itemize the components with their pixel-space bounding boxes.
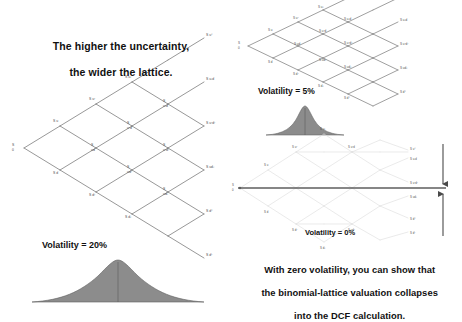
node-label: S u²d: [319, 29, 327, 33]
conclusion-line-3: into the DCF calculation.: [294, 310, 405, 321]
node-label: S d³: [318, 84, 324, 88]
node-label: S u³d: [400, 18, 408, 22]
node-label: S d⁵: [410, 231, 415, 235]
page-title-line-1: The higher the uncertainty,: [53, 40, 190, 52]
node-label: S u²d: [348, 145, 355, 149]
node-label: S ud: [294, 42, 301, 46]
volatility-0-label: Volatility = 0%: [305, 228, 355, 237]
node-label: S u³d: [344, 17, 352, 21]
node-label: S u²: [293, 16, 299, 20]
volatility-5-label: Volatility = 5%: [258, 86, 315, 96]
node-label: S u²: [89, 97, 96, 101]
node-label: S ud³: [400, 66, 407, 70]
node-label: ud²: [127, 170, 133, 174]
node-label: S u²d²: [400, 42, 408, 46]
page-title: The higher the uncertainty, the wider th…: [28, 27, 208, 79]
node-label: S d²: [293, 72, 299, 76]
node-label: S d: [268, 60, 273, 64]
node-label: S ud²: [319, 58, 326, 62]
node-label: S u³: [318, 5, 324, 9]
conclusion-text: With zero volatility, you can show that …: [236, 252, 458, 322]
node-label: ud³: [163, 192, 169, 196]
node-label: u²d²: [163, 148, 170, 152]
node-label: S u: [268, 28, 273, 32]
node-label: S d³: [125, 215, 132, 219]
node-label: S u: [53, 119, 58, 123]
node-label: S d⁴: [344, 96, 351, 100]
node-label: S d²: [89, 193, 96, 197]
node-label: S: [232, 183, 234, 187]
node-label: S u³: [320, 127, 325, 131]
node-label: S d²: [292, 228, 297, 232]
conclusion-line-1: With zero volatility, you can show that: [264, 264, 435, 275]
node-label: S ud³: [344, 65, 351, 69]
node-label: S d³: [320, 246, 325, 250]
node-label: S d⁵: [206, 253, 213, 257]
page-title-line-2: the wider the lattice.: [69, 66, 172, 78]
conclusion-line-2: the binomial-lattice valuation collapses: [261, 287, 438, 298]
node-label: S u²d²: [206, 121, 216, 125]
volatility-20-label: Volatility = 20%: [42, 240, 107, 250]
node-label: S u³d: [410, 157, 417, 161]
node-label: S d⁴: [410, 217, 416, 221]
node-label: S u⁴: [410, 147, 416, 151]
zero-volatility-root-node: [239, 187, 241, 189]
node-label: S u²: [292, 145, 297, 149]
node-label: S: [238, 41, 240, 45]
node-label: S u²d²: [410, 181, 418, 185]
node-label: 0: [12, 148, 14, 152]
node-label: u³d: [163, 104, 168, 108]
node-label: S d: [53, 171, 58, 175]
node-label: ud: [91, 148, 95, 152]
node-label: S ud³: [410, 195, 417, 199]
node-label: u²d: [127, 126, 132, 130]
node-label: S d: [264, 210, 269, 214]
node-label: S u²d²: [344, 41, 352, 45]
node-label: S ud³: [206, 165, 215, 169]
node-label: S u: [264, 163, 269, 167]
node-label: S d⁴: [400, 90, 407, 94]
node-label: S d⁴: [206, 209, 213, 213]
